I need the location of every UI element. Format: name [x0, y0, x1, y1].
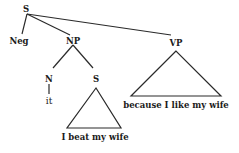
node-vp: VP	[169, 38, 184, 48]
node-s-embedded: S	[93, 74, 99, 84]
edge-np-s	[73, 45, 93, 68]
triangle-embedded-s	[67, 88, 121, 128]
node-np: NP	[66, 36, 81, 46]
terminal-it: it	[46, 96, 53, 106]
edge-s-neg	[22, 14, 27, 34]
syntax-tree: S Neg NP VP N S it I beat my wife becaus…	[0, 0, 239, 153]
edge-np-n	[53, 45, 73, 68]
terminal-because-i-like-my-wife: because I like my wife	[123, 100, 229, 110]
node-s-root: S	[23, 4, 29, 14]
node-neg: Neg	[9, 36, 28, 46]
triangle-vp	[131, 51, 221, 96]
node-n: N	[45, 74, 53, 84]
terminal-i-beat-my-wife: I beat my wife	[61, 132, 129, 142]
